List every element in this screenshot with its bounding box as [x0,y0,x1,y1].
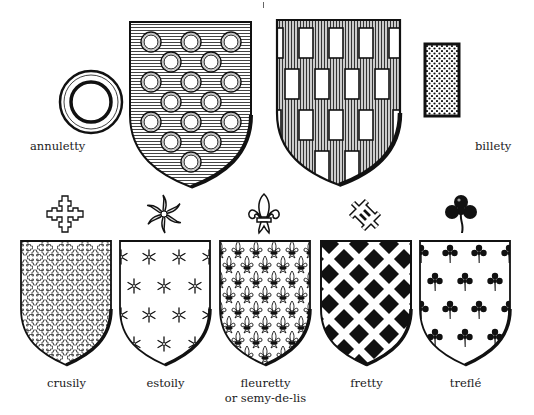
label-estoily: estoily [118,376,213,390]
trefoil-icon [444,193,478,235]
label-annuletty: annuletty [30,139,85,153]
label-fretty: fretty [319,376,414,390]
shield-fretty [319,239,414,369]
label-trefle: treflé [418,376,513,390]
shield-estoily [118,239,213,369]
shield-fleuretty [218,239,313,369]
fret-knot-icon [345,195,385,235]
shield-trefle [418,239,513,369]
shield-annuletty [128,20,254,190]
label-semy-de-lis: or semy-de-lis [218,391,313,405]
annulet-icon [57,68,127,138]
estoile-icon [144,193,184,235]
billet-icon [423,42,461,118]
top-tick-mark [263,2,264,8]
fleur-de-lis-icon [247,193,281,235]
cross-crosslet-icon [45,194,85,234]
shield-billety [275,18,403,188]
shield-crusily [19,239,114,369]
label-fleuretty: fleuretty [218,376,313,390]
label-crusily: crusily [19,376,114,390]
label-billety: billety [475,139,511,153]
